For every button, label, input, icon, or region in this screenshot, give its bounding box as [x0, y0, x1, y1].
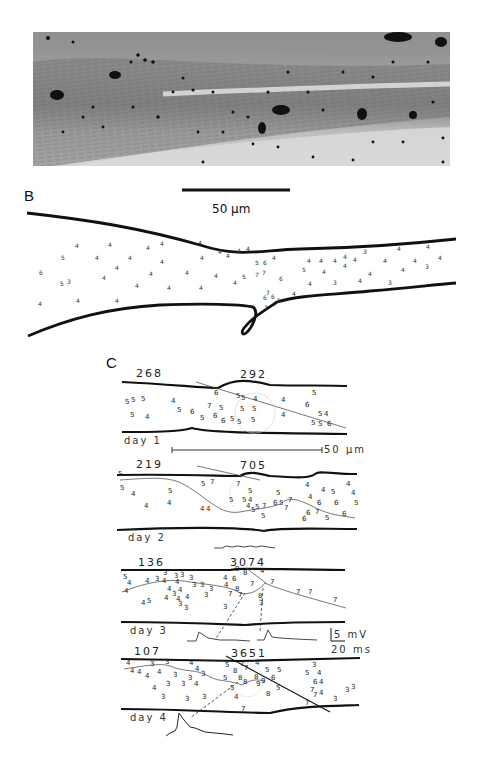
density-number: 3	[425, 263, 429, 270]
density-number: 4	[145, 577, 150, 585]
density-number: 7	[262, 502, 266, 510]
density-number: 6	[263, 294, 267, 301]
density-number: 7	[296, 588, 300, 596]
density-number: 4	[343, 253, 347, 260]
density-number: 7	[207, 402, 211, 410]
density-number: 5	[223, 674, 227, 682]
density-number: 8	[238, 674, 242, 682]
density-number: 8	[266, 690, 270, 698]
density-number: 3	[259, 599, 263, 607]
density-number: 4	[195, 665, 200, 673]
density-number: 4	[200, 505, 205, 513]
density-number: 5	[240, 405, 244, 413]
day4-right-value: 3651	[231, 647, 267, 660]
density-number: 7	[241, 705, 245, 713]
density-number: 4	[128, 254, 132, 261]
density-number: 4	[115, 264, 119, 271]
density-number: 4	[131, 490, 136, 498]
density-number: 3	[185, 695, 189, 703]
density-number: 4	[76, 297, 80, 304]
density-number: 4	[218, 248, 222, 255]
density-number: 5	[118, 470, 122, 478]
density-number: 7	[305, 699, 309, 707]
panel-b-upper-outline	[27, 213, 456, 252]
density-number: 6	[263, 259, 267, 266]
density-number: 5	[61, 254, 65, 261]
density-number: 6	[273, 499, 278, 507]
density-number: 5	[219, 404, 223, 412]
day2-label-text: day 2	[128, 532, 166, 543]
density-number: 5	[130, 411, 134, 419]
density-number: 4	[292, 290, 296, 297]
density-number: 4	[383, 257, 387, 264]
density-number: 4	[246, 245, 250, 252]
day4-trace	[166, 713, 233, 736]
density-number: 3	[345, 686, 349, 694]
density-number: 4	[130, 667, 135, 675]
density-number: 4	[322, 268, 326, 275]
density-number: 6	[306, 509, 311, 517]
day3-upper-outline	[121, 569, 345, 570]
day4-label: day 4	[130, 712, 168, 723]
density-number: 4	[319, 689, 324, 697]
density-number: 6	[302, 515, 307, 523]
density-number: 4	[167, 284, 171, 291]
density-number: 7	[238, 591, 242, 599]
density-number: 6	[271, 293, 275, 300]
density-number: 7	[264, 304, 268, 311]
density-number: 8	[243, 678, 247, 686]
day1-right-value: 292	[240, 368, 267, 381]
density-number: 4	[214, 272, 218, 279]
density-number: 4	[321, 486, 326, 494]
density-number: 9	[256, 680, 260, 688]
density-number: 4	[126, 659, 131, 667]
density-number: 3	[180, 571, 184, 579]
density-number: 5	[120, 484, 124, 492]
density-number: 5	[141, 395, 145, 403]
day3-label: day 3	[130, 625, 168, 636]
density-number: 7	[284, 504, 288, 512]
density-number: 4	[157, 668, 162, 676]
density-number: 4	[145, 413, 150, 421]
density-number: 4	[108, 241, 112, 248]
density-number: 4	[401, 266, 405, 273]
density-number: 5	[168, 487, 172, 495]
density-number: 5	[277, 666, 281, 674]
density-number: 6	[313, 678, 318, 686]
density-number: 5	[225, 661, 229, 669]
density-number: 4	[343, 262, 347, 269]
density-number: 5	[125, 398, 129, 406]
density-number: 4	[333, 257, 337, 264]
density-number: 5	[230, 415, 234, 423]
density-number: 3	[312, 661, 316, 669]
density-number: 8	[233, 667, 237, 675]
density-number: 3	[209, 585, 213, 593]
density-number: 4	[253, 395, 258, 403]
density-number: 5	[201, 480, 205, 488]
density-number: 3	[178, 600, 182, 608]
density-number: 3	[223, 603, 227, 611]
density-number: 7	[315, 508, 319, 516]
density-number: 4	[206, 505, 211, 513]
figure-drawing: 50 μm 4444454444444465344444454444445647…	[0, 0, 481, 775]
density-number: 4	[368, 270, 372, 277]
density-number: 4	[234, 693, 239, 701]
density-number: 5	[131, 396, 135, 404]
density-number: 4	[353, 256, 357, 263]
density-number: 4	[141, 599, 146, 607]
density-number: 4	[146, 244, 150, 251]
density-number: 5	[200, 414, 204, 422]
density-number: 4	[224, 581, 229, 589]
density-number: 4	[308, 493, 313, 501]
density-number: 5	[236, 392, 240, 400]
density-number: 4	[145, 672, 150, 680]
density-number: 7	[236, 480, 240, 488]
day1-upper-outline	[122, 381, 347, 388]
density-number: 3	[202, 693, 206, 701]
day1-label: day 1	[124, 435, 162, 446]
density-number: 4	[135, 282, 139, 289]
density-number: 4	[281, 411, 286, 419]
day2-left-value: 219	[136, 458, 163, 471]
density-number: 4	[178, 586, 183, 594]
panel-b-number-labels: 4444454444444465344444454444445647765444…	[38, 239, 442, 311]
